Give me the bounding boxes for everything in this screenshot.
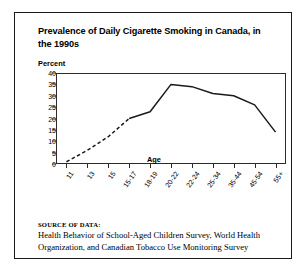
x-axis-tick-mark bbox=[87, 164, 88, 168]
x-axis-tick-mark bbox=[150, 164, 151, 168]
x-axis-tick-label: 20-22 bbox=[164, 170, 180, 189]
data-line-segment-solid bbox=[129, 84, 275, 132]
x-axis-tick-label: 18-19 bbox=[143, 170, 159, 189]
x-axis-tick-label: 13 bbox=[86, 170, 96, 180]
y-axis-title: Percent bbox=[38, 59, 65, 68]
x-axis-tick-label: 55+ bbox=[272, 170, 285, 184]
x-axis-tick-mark bbox=[213, 164, 214, 168]
x-axis-tick-mark bbox=[192, 164, 193, 168]
x-axis-title: Age bbox=[15, 155, 293, 164]
x-axis-tick-mark bbox=[129, 164, 130, 168]
source-note-text: Health Behavior of School-Aged Children … bbox=[38, 230, 283, 253]
x-axis-tick-label: 15 bbox=[107, 170, 117, 180]
chart-title: Prevalence of Daily Cigarette Smoking in… bbox=[38, 25, 270, 50]
x-axis-tick-mark bbox=[234, 164, 235, 168]
source-note: SOURCE OF DATA: Health Behavior of Schoo… bbox=[38, 221, 283, 253]
data-line-chart bbox=[56, 73, 286, 164]
x-axis-tick-label: 11 bbox=[65, 170, 75, 180]
x-axis-tick-mark bbox=[276, 164, 277, 168]
x-axis-tick-mark bbox=[255, 164, 256, 168]
x-axis-tick-mark bbox=[171, 164, 172, 168]
x-axis-ticks bbox=[56, 164, 286, 169]
x-axis-tick-label: 35-44 bbox=[226, 170, 242, 189]
x-axis-tick-mark bbox=[66, 164, 67, 168]
figure-frame: Prevalence of Daily Cigarette Smoking in… bbox=[14, 12, 292, 259]
y-axis-ticks: 0510152025303540 bbox=[35, 73, 56, 164]
x-axis-tick-label: 45-54 bbox=[247, 170, 263, 189]
x-axis-tick-label: 15-17 bbox=[122, 170, 138, 189]
x-axis-tick-labels: 11131515-1718-1920-2222-2425-3435-4445-5… bbox=[56, 170, 286, 210]
x-axis-tick-label: 22-24 bbox=[185, 170, 201, 189]
source-note-heading: SOURCE OF DATA: bbox=[38, 221, 283, 228]
x-axis-tick-mark bbox=[108, 164, 109, 168]
x-axis-tick-label: 25-34 bbox=[206, 170, 222, 189]
